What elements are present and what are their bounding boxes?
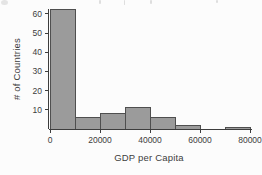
- y-axis-label: # of Countries: [11, 29, 22, 109]
- y-tick-label: 10: [33, 105, 43, 115]
- y-tick-label: 40: [33, 47, 43, 57]
- x-axis-label: GDP per Capita: [0, 152, 262, 163]
- x-tick-label: 20000: [88, 135, 112, 145]
- y-tick-label: 60: [33, 9, 43, 19]
- gdp-per-capita-histogram: 020000400006000080000102030405060: [0, 0, 262, 175]
- x-tick-label: 40000: [138, 135, 162, 145]
- y-tick-label: 20: [33, 86, 43, 96]
- x-tick-label: 80000: [238, 135, 262, 145]
- y-tick-label: 30: [33, 66, 43, 76]
- x-tick-label: 60000: [188, 135, 212, 145]
- histogram-bar: [101, 114, 126, 129]
- histogram-bar: [176, 125, 201, 129]
- histogram-bar: [151, 117, 176, 129]
- histogram-bar: [126, 108, 151, 129]
- x-tick-label: 0: [48, 135, 53, 145]
- histogram-bar: [51, 10, 76, 129]
- histogram-bar: [76, 117, 101, 129]
- scanned-figure-page: 020000400006000080000102030405060 GDP pe…: [0, 0, 262, 175]
- y-tick-label: 50: [33, 28, 43, 38]
